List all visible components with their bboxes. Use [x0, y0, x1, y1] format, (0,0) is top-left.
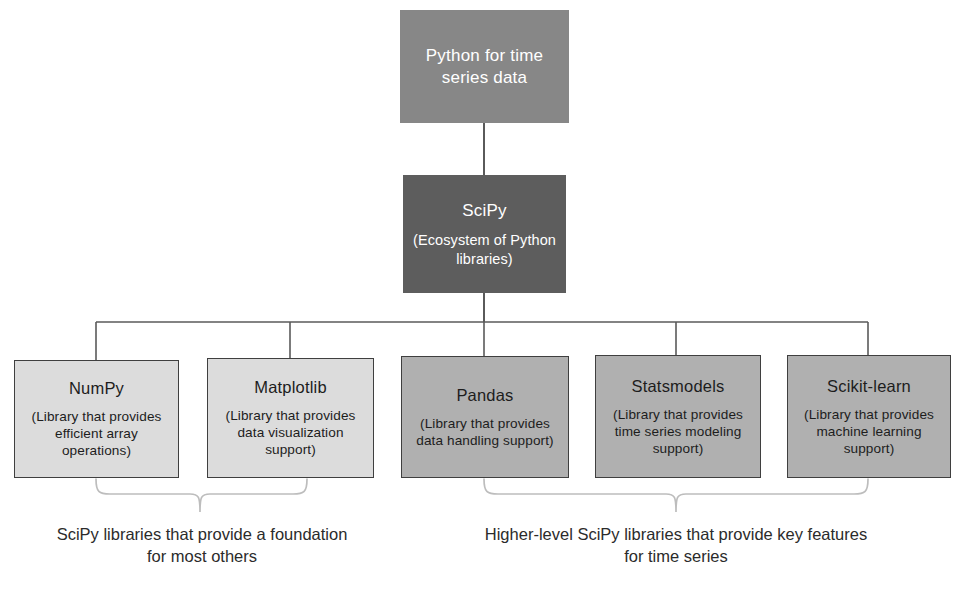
brace-higher-level — [484, 479, 868, 512]
node-title: SciPy — [462, 200, 506, 221]
brace-foundation — [96, 479, 307, 512]
node-subtitle: (Library that provides data visualizatio… — [208, 407, 373, 458]
node-subtitle: (Library that provides efficient array o… — [15, 408, 178, 459]
node-title: Pandas — [456, 385, 513, 406]
node-title: NumPy — [69, 378, 124, 399]
node-pandas[interactable]: Pandas (Library that provides data handl… — [401, 356, 569, 478]
node-scikit-learn[interactable]: Scikit-learn (Library that provides mach… — [787, 355, 951, 478]
node-matplotlib[interactable]: Matplotlib (Library that provides data v… — [207, 358, 374, 478]
caption-higher-level-group: Higher-level SciPy libraries that provid… — [476, 524, 876, 568]
node-title: Python for time series data — [400, 45, 569, 88]
node-title: Scikit-learn — [827, 376, 911, 397]
diagram-canvas: Python for time series data SciPy (Ecosy… — [0, 0, 960, 594]
node-scipy[interactable]: SciPy (Ecosystem of Python libraries) — [403, 175, 566, 293]
node-title: Statsmodels — [632, 376, 725, 397]
node-numpy[interactable]: NumPy (Library that provides efficient a… — [14, 360, 179, 478]
node-statsmodels[interactable]: Statsmodels (Library that provides time … — [595, 355, 761, 478]
node-subtitle: (Library that provides data handling sup… — [402, 415, 568, 449]
node-subtitle: (Ecosystem of Python libraries) — [403, 231, 566, 268]
node-subtitle: (Library that provides machine learning … — [788, 406, 950, 457]
node-subtitle: (Library that provides time series model… — [596, 406, 760, 457]
node-python-for-time-series-data[interactable]: Python for time series data — [400, 10, 569, 123]
node-title: Matplotlib — [254, 377, 327, 398]
caption-foundation-group: SciPy libraries that provide a foundatio… — [52, 524, 352, 568]
